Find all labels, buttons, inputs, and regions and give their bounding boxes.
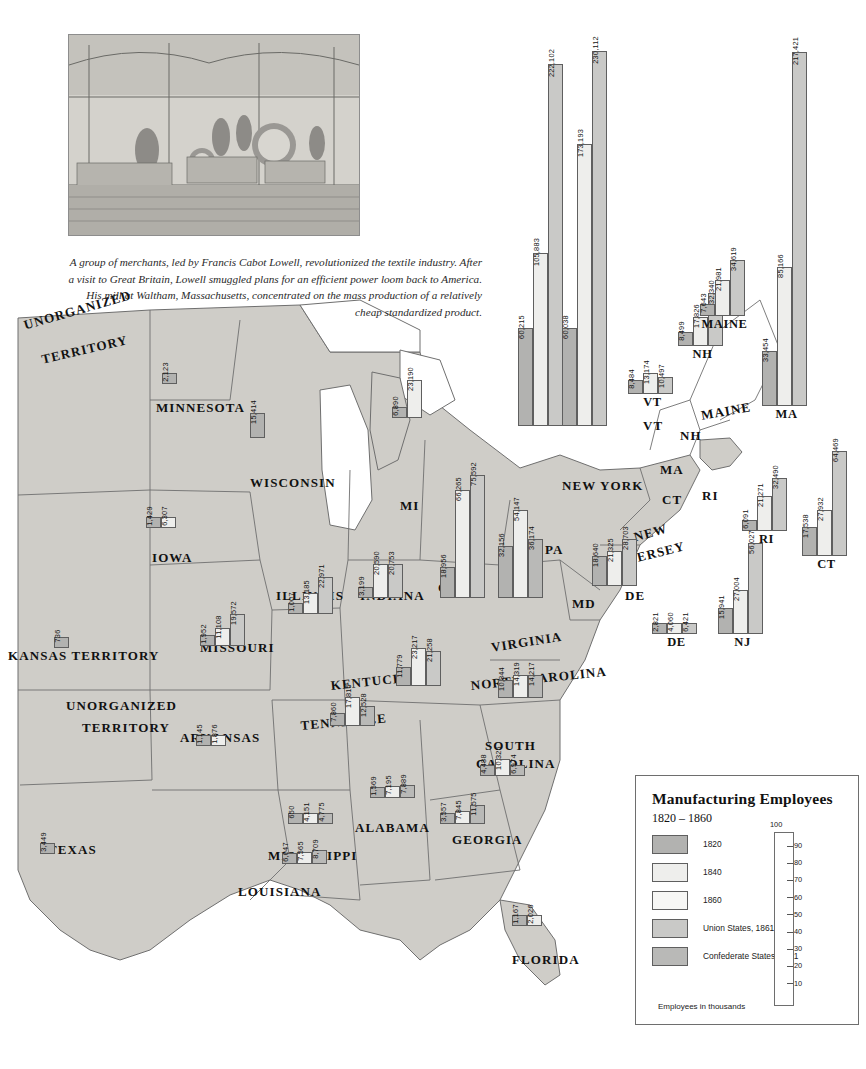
state-label-kansas-territory: KANSAS TERRITORY [8, 648, 159, 664]
legend-label: 1820 [703, 839, 722, 850]
legend-tick: 20 [794, 961, 802, 970]
bar-me-1860: 34,619 [730, 260, 745, 316]
bar-cluster-il: 1,00713,18522,971 [288, 531, 337, 628]
bar-value-label: 4,060 [666, 612, 675, 632]
bar-value-label: 6,890 [391, 396, 400, 416]
state-label-mi: MI [400, 498, 420, 514]
bar-value-label: 1,429 [145, 506, 154, 526]
bar-il-1820: 1,007 [288, 603, 303, 614]
bar-cluster-vt: 8,48413,17410,497VT [628, 327, 677, 408]
bar-pa-1840: 173,193 [577, 144, 592, 426]
bar-value-label: 3,199 [357, 576, 366, 596]
bar-mo-1860: 19,572 [230, 614, 245, 646]
legend-tick: 50 [794, 910, 802, 919]
bar-value-label: 36,174 [527, 526, 536, 550]
legend-tick: 30 [794, 944, 802, 953]
bar-value-label: 64,469 [831, 438, 840, 462]
bar-value-label: 2,821 [651, 612, 660, 632]
legend-footnote: Employees in thousands [658, 1002, 745, 1011]
bar-value-label: 1,007 [287, 592, 296, 612]
bar-tn-1840: 17,815 [345, 697, 360, 726]
bar-ma-1840: 85,166 [777, 267, 792, 406]
bar-cluster-tn: 7,86017,81512,528 [330, 651, 379, 740]
bar-md-1840: 21,325 [607, 551, 622, 586]
bar-vt-1860: 10,497 [658, 377, 673, 394]
bars: 18,95666,26575,592 [440, 475, 485, 598]
bar-cluster-mo: 1,95211,10819,572 [200, 568, 249, 660]
bar-cluster-la: 6,0477,5658,709 [282, 804, 331, 878]
bar-value-label: 17,815 [344, 684, 353, 708]
bars: 8,48413,17410,497 [628, 373, 673, 394]
state-label-vt-map: VT [643, 418, 663, 434]
state-label-iowa: IOWA [152, 550, 193, 566]
bar-value-label: 13,174 [642, 360, 651, 384]
bar-nj-1840: 27,004 [733, 590, 748, 634]
bar-value-label: 28,703 [621, 526, 630, 550]
bars: 1,95211,10819,572 [200, 614, 245, 646]
bar-value-label: 1,569 [369, 776, 378, 796]
bars: 1,4296,307 [146, 517, 176, 528]
state-label-alabama: ALABAMA [355, 820, 430, 836]
bar-de-1840: 4,060 [667, 623, 682, 634]
bars: 6,0477,5658,709 [282, 850, 327, 864]
bar-value-label: 6,047 [281, 842, 290, 862]
bar-cluster-ma: 33,45485,166217,421MA [762, 6, 811, 420]
legend-tick: 80 [794, 858, 802, 867]
bar-fl-1820: 1,167 [512, 915, 527, 926]
bar-value-label: 60,215 [517, 315, 526, 339]
bar-ia-1820: 1,429 [146, 517, 161, 528]
bar-value-label: 27,004 [732, 577, 741, 601]
bar-pa-1820: 60,038 [562, 328, 577, 426]
bar-va-1860: 36,174 [528, 539, 543, 598]
state-label-nh-map: NH [680, 428, 702, 444]
bar-ia-1840: 6,307 [161, 517, 176, 528]
bars: 2,123 [162, 373, 177, 384]
bar-cluster-de: 2,8214,0606,421DE [652, 577, 701, 648]
bar-value-label: 23,217 [410, 635, 419, 659]
bar-value-label: 66,265 [454, 477, 463, 501]
bar-ri-1860: 32,490 [772, 478, 787, 531]
bar-tx-1820: 3,449 [40, 843, 55, 854]
bar-va-1840: 54,147 [513, 510, 528, 598]
bar-value-label: 20,590 [372, 552, 381, 576]
legend-label: 1840 [703, 867, 722, 878]
bar-ky-1820: 11,779 [396, 667, 411, 686]
bar-mi-1820: 6,890 [392, 407, 407, 418]
bar-value-label: 8,499 [677, 321, 686, 341]
state-label-ma-map: MA [660, 462, 684, 478]
legend-item: 1860 [652, 882, 858, 910]
bar-cluster-pa: 60,038173,193230,112 [562, 5, 611, 440]
bar-la-1840: 7,565 [297, 852, 312, 864]
bar-nc-1840: 14,319 [513, 675, 528, 698]
mill-illustration [68, 34, 360, 236]
bar-value-label: 19,572 [229, 601, 238, 625]
bar-ky-1840: 23,217 [411, 648, 426, 686]
bar-md-1860: 28,703 [622, 539, 637, 586]
bar-ar-1820: 1,145 [196, 735, 211, 746]
bar-nc-1860: 14,217 [528, 675, 543, 698]
bar-cluster-ia: 1,4296,307 [146, 471, 180, 542]
legend-swatch [652, 947, 688, 966]
bar-cluster-ga: 3,5577,84511,575 [440, 759, 489, 838]
bar-value-label: 10,497 [657, 364, 666, 388]
bar-cluster-ny: 60,215105,883222,102 [518, 18, 567, 440]
bars: 736 [54, 637, 69, 648]
bar-ny-1860: 222,102 [548, 64, 563, 426]
bar-value-label: 13,185 [302, 580, 311, 604]
bar-value-label: 34,619 [729, 247, 738, 271]
bar-nc-1820: 10,844 [498, 680, 513, 698]
bar-vt-1820: 8,484 [628, 380, 643, 394]
bars: 18,64021,32528,703 [592, 539, 637, 586]
legend-rows: 182018401860Union States, 1861Confederat… [636, 826, 858, 966]
bar-de-1860: 6,421 [682, 623, 697, 634]
state-label-ct-map: CT [662, 492, 682, 508]
bar-value-label: 21,258 [425, 638, 434, 662]
bars: 15,414 [250, 413, 265, 438]
bars: 60,215105,883222,102 [518, 64, 563, 426]
bar-value-label: 75,592 [469, 462, 478, 486]
state-label-pa: PA [545, 542, 564, 558]
cluster-label-vt: VT [628, 395, 677, 410]
bar-value-label: 33,454 [761, 339, 770, 363]
bars: 1,1451,876 [196, 735, 226, 746]
bar-value-label: 11,575 [469, 792, 478, 815]
